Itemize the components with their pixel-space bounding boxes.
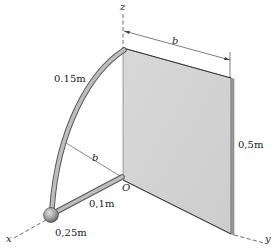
x-axis-label: x bbox=[6, 234, 12, 244]
y-axis-label: y bbox=[265, 234, 271, 244]
diagram-canvas: z b 0.15m 0,5m b O 0,1m 0,25m x y bbox=[0, 0, 278, 252]
rod-length-label: 0,1m bbox=[89, 199, 114, 209]
z-axis-label: z bbox=[120, 2, 125, 12]
x-axis bbox=[14, 220, 46, 238]
diagram-svg bbox=[0, 0, 278, 252]
sphere bbox=[44, 208, 59, 223]
origin-label: O bbox=[122, 183, 130, 193]
sphere-label: 0,25m bbox=[55, 228, 87, 238]
arc-length-label: 0.15m bbox=[54, 74, 86, 84]
arc-radius-label: b bbox=[92, 153, 98, 163]
rectangular-plate bbox=[123, 48, 234, 235]
plate-width-label: b bbox=[172, 36, 178, 46]
y-axis bbox=[234, 235, 264, 243]
plate-height-label: 0,5m bbox=[238, 140, 263, 150]
